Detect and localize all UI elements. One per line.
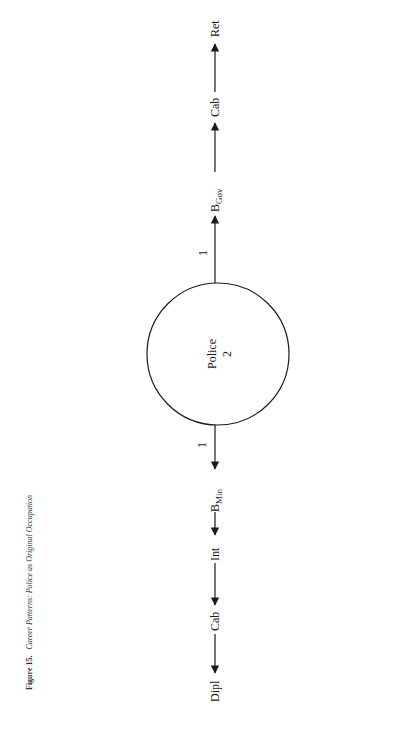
svg-text:BGov: BGov — [208, 188, 224, 212]
edge-count-down: 1 — [195, 442, 209, 448]
node-b-gov-sub: Gov — [214, 188, 224, 204]
police-node-label: Police — [205, 339, 219, 369]
node-cab-up: Cab — [208, 98, 222, 117]
node-b-min: BMin — [208, 488, 224, 512]
node-b-min-main: B — [208, 504, 222, 512]
edge-count-up: 1 — [196, 250, 210, 256]
svg-text:BMin: BMin — [208, 488, 224, 512]
node-b-gov: BGov — [208, 188, 224, 212]
figure-label: Figure 15. — [25, 655, 34, 690]
police-node-count: 2 — [220, 351, 234, 357]
downward-path: 1 BMin Int Cab Dipl — [195, 425, 224, 702]
upward-path: 1 BGov Cab Ret — [196, 20, 224, 283]
node-ret: Ret — [208, 20, 222, 37]
node-dipl: Dipl — [208, 680, 222, 702]
figure-caption: Figure 15. Career Patterns: Police as Or… — [25, 495, 34, 690]
node-b-gov-main: B — [208, 204, 222, 212]
node-cab-down: Cab — [208, 612, 222, 631]
svg-text:Figure 15. Career Patter: Figure 15. Career Patterns: Police as Or… — [25, 495, 34, 690]
node-int: Int — [208, 547, 222, 561]
node-b-min-sub: Min — [214, 488, 224, 504]
figure-title: Career Patterns: Police as Original Occu… — [25, 495, 34, 650]
police-node: Police 2 — [147, 283, 289, 425]
career-pattern-diagram: Figure 15. Career Patterns: Police as Or… — [0, 0, 411, 742]
